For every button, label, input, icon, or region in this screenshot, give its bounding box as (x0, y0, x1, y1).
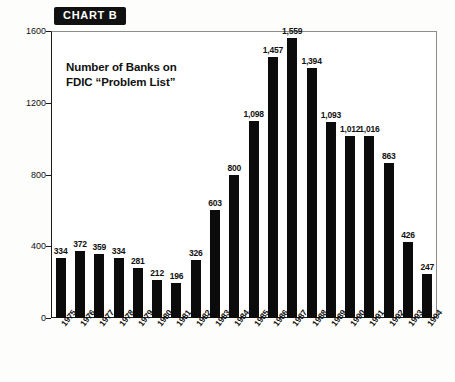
bar-value-label: 334 (112, 247, 126, 256)
bar-value-label: 1,457 (263, 46, 283, 55)
bar-slot: 247 (418, 31, 437, 318)
bar (287, 38, 297, 318)
y-tick-label: 800 (31, 171, 46, 180)
bar-value-label: 1,016 (359, 125, 379, 134)
bar (191, 260, 201, 318)
bar (56, 258, 66, 318)
bar (307, 68, 317, 318)
bar (75, 251, 85, 318)
bar (364, 136, 374, 318)
bar (422, 274, 432, 318)
chart-badge: CHART B (54, 7, 126, 25)
bar (229, 175, 239, 319)
chart-figure: CHART B 040080012001600 3343723593342812… (0, 0, 455, 382)
bar-slot: 1,012 (341, 31, 360, 318)
bar-value-label: 212 (150, 269, 164, 278)
bar-value-label: 1,098 (244, 110, 264, 119)
bar-value-label: 359 (92, 243, 106, 252)
bar-slot: 1,098 (244, 31, 263, 318)
bar-value-label: 603 (208, 199, 222, 208)
bar-value-label: 326 (189, 249, 203, 258)
bar-slot: 1,394 (302, 31, 321, 318)
x-axis-labels: 1975197619771978197919801981198219831984… (51, 320, 437, 370)
bar-slot: 1,016 (360, 31, 379, 318)
bar (94, 254, 104, 318)
y-axis-labels: 040080012001600 (8, 31, 46, 318)
bar-slot: 426 (398, 31, 417, 318)
bar (268, 57, 278, 318)
bar-value-label: 196 (170, 272, 184, 281)
bar (403, 242, 413, 318)
bar-value-label: 281 (131, 257, 145, 266)
bar (249, 121, 259, 318)
bar (133, 268, 143, 318)
bar (210, 210, 220, 318)
bar-value-label: 800 (228, 164, 242, 173)
bar-value-label: 1,559 (282, 27, 302, 36)
y-tick-label: 400 (31, 242, 46, 251)
bar-value-label: 1,012 (340, 125, 360, 134)
bar-value-label: 1,093 (321, 111, 341, 120)
bar-value-label: 426 (401, 231, 415, 240)
y-tick-label: 0 (41, 314, 46, 323)
bar (345, 136, 355, 318)
bar (326, 122, 336, 318)
y-tick-label: 1600 (26, 27, 46, 36)
bar-slot: 800 (225, 31, 244, 318)
bar-slot: 863 (379, 31, 398, 318)
bar-value-label: 863 (382, 152, 396, 161)
bar-slot: 1,093 (321, 31, 340, 318)
bar (114, 258, 124, 318)
bar-slot: 603 (205, 31, 224, 318)
y-tick-mark (46, 318, 51, 319)
bar-slot: 1,457 (263, 31, 282, 318)
bar-value-label: 334 (54, 247, 68, 256)
bar-slot: 326 (186, 31, 205, 318)
bar (384, 163, 394, 318)
y-tick-label: 1200 (26, 99, 46, 108)
bar-slot: 1,559 (283, 31, 302, 318)
bar-value-label: 372 (73, 240, 87, 249)
plot-title: Number of Banks on FDIC “Problem List” (66, 60, 177, 90)
bar-value-label: 247 (421, 263, 435, 272)
bar-value-label: 1,394 (301, 57, 321, 66)
